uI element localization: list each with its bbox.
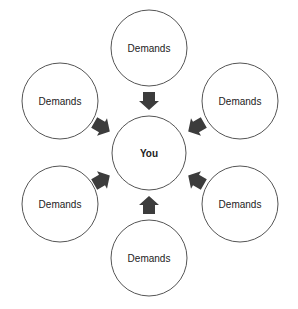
arrow-down-icon xyxy=(139,92,159,110)
node-lower-left-label: Demands xyxy=(39,199,82,210)
node-bottom-label: Demands xyxy=(128,253,171,264)
node-lower-left: Demands xyxy=(22,166,98,242)
node-lower-right: Demands xyxy=(202,166,278,242)
demands-diagram: Demands Demands Demands Demands Demands … xyxy=(0,0,298,309)
arrow-upper-right-to-center xyxy=(183,114,209,140)
arrow-top-to-center xyxy=(139,92,159,110)
node-upper-left-label: Demands xyxy=(39,96,82,107)
arrow-up-icon xyxy=(139,196,159,214)
node-center-label: You xyxy=(140,148,158,159)
node-upper-right-label: Demands xyxy=(219,96,262,107)
node-top: Demands xyxy=(111,10,187,86)
arrow-bottom-to-center xyxy=(139,196,159,214)
node-lower-right-label: Demands xyxy=(219,199,262,210)
node-center: You xyxy=(112,116,186,190)
node-top-label: Demands xyxy=(128,43,171,54)
node-upper-left: Demands xyxy=(22,63,98,139)
node-upper-right: Demands xyxy=(202,63,278,139)
node-bottom: Demands xyxy=(111,220,187,296)
arrow-diagonal-icon xyxy=(183,114,209,140)
